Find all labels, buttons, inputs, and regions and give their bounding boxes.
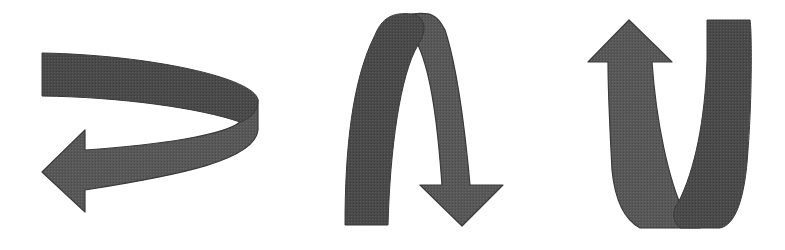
curved-left-arrow-upper-band — [42, 53, 258, 122]
arrow-figure — [0, 0, 785, 250]
arch-down-arrow-right-leg — [412, 13, 503, 226]
arch-down-arrow-icon — [345, 13, 503, 226]
arch-down-arrow-left-leg — [345, 14, 424, 225]
curved-left-arrow-icon — [42, 53, 258, 212]
v-up-arrow-icon — [588, 20, 751, 228]
v-up-arrow-right-band — [674, 20, 752, 228]
arrows-svg — [0, 0, 785, 250]
